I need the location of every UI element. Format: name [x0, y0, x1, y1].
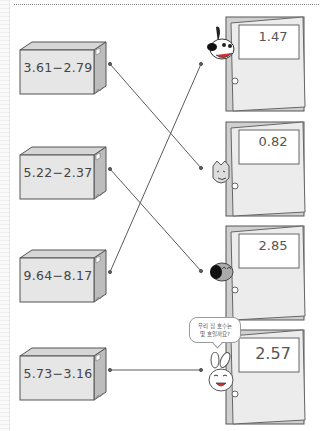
- speech-bubble: 우리 집 호수는 몇 호일까요?: [189, 317, 241, 343]
- line-box3-door1[interactable]: [110, 64, 201, 272]
- door-4: 2.57: [225, 328, 309, 426]
- box-2: 5.22−2.37: [18, 145, 110, 201]
- speech-bubble-line-1: 우리 집 호수는: [190, 322, 240, 330]
- line-box2-door3[interactable]: [110, 169, 201, 271]
- door-number: 2.57: [247, 344, 299, 363]
- box-4: 5.73−3.16: [18, 346, 110, 402]
- box-expression: 5.73−3.16: [22, 366, 94, 381]
- bird-character-icon: [208, 260, 234, 286]
- cat-character-icon: [211, 160, 233, 190]
- door-1: 1.47: [225, 15, 309, 113]
- box-expression: 5.22−2.37: [22, 165, 94, 180]
- box-1: 3.61−2.79: [18, 40, 110, 96]
- door-number: 0.82: [247, 134, 299, 149]
- rabbit-character-icon: [207, 352, 237, 402]
- door-2: 0.82: [225, 120, 309, 218]
- box-expression: 9.64−8.17: [22, 268, 94, 283]
- door-number: 2.85: [247, 238, 299, 253]
- box-3: 9.64−8.17: [18, 248, 110, 304]
- line-box1-door2[interactable]: [110, 64, 201, 168]
- door-3: 2.85: [225, 224, 309, 322]
- dog-character-icon: [204, 25, 236, 65]
- door-number: 1.47: [247, 29, 299, 44]
- box-expression: 3.61−2.79: [22, 60, 94, 75]
- door-icon: [225, 328, 309, 426]
- speech-bubble-line-2: 몇 호일까요?: [190, 330, 240, 338]
